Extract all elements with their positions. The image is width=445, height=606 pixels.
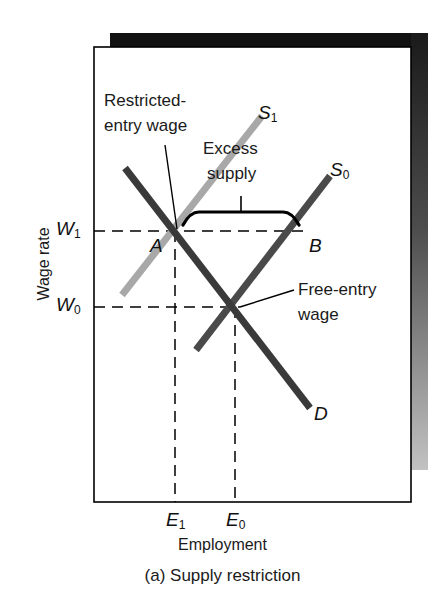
y-tick-w1: W1 [56,219,81,240]
annotation-excess-supply-line2: supply [207,165,256,182]
point-label-a: A [150,236,163,255]
curve-label-s1-sub: 1 [271,111,278,125]
y-tick-w0: W0 [56,295,81,316]
x-axis-title: Employment [0,537,445,553]
annotation-restricted-entry-wage-line2: entry wage [104,117,187,134]
figure-caption: (a) Supply restriction [0,566,445,586]
x-tick-e1-base: E [166,509,179,530]
y-tick-w0-sub: 0 [74,303,81,317]
shadow-right [411,33,428,470]
curve-label-s1: S1 [258,103,277,124]
shadow-top [110,33,428,48]
annotation-free-entry-wage-line2: wage [298,306,339,323]
annotation-free-entry-wage-line1: Free-entry [298,281,376,298]
figure-supply-restriction: Wage rate W1 W0 E1 E0 Employment S1 S0 D… [0,0,445,606]
point-label-b: B [309,236,322,255]
annotation-restricted-entry-wage-line1: Restricted- [104,92,186,109]
annotation-excess-supply-line1: Excess [203,140,258,157]
x-tick-e0: E0 [226,510,245,531]
curve-label-s0: S0 [330,160,349,181]
curve-label-s0-sub: 0 [343,168,350,182]
x-tick-e1-sub: 1 [179,518,186,532]
x-tick-e0-base: E [226,509,239,530]
x-tick-e0-sub: 0 [239,518,246,532]
y-tick-w1-base: W [56,218,74,239]
x-tick-e1: E1 [166,510,185,531]
curve-label-d: D [314,404,328,423]
y-tick-w1-sub: 1 [74,227,81,241]
curve-label-s1-base: S [258,102,271,123]
y-axis-title: Wage rate [35,204,53,324]
curve-label-s0-base: S [330,159,343,180]
y-tick-w0-base: W [56,294,74,315]
